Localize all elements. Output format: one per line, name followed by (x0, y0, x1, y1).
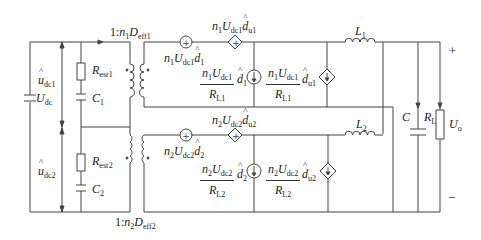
u: U (174, 144, 183, 158)
load-resistor-label: RL (424, 111, 436, 126)
u: U (174, 51, 183, 65)
transformer1-ratio-label: 1:n1Deff1 (110, 26, 151, 41)
u-sub: dc1 (44, 80, 56, 89)
u: U (212, 162, 221, 176)
d: d (302, 73, 308, 85)
c: C (402, 110, 410, 124)
d-sub: 2 (200, 151, 204, 160)
u: U (222, 113, 231, 127)
output-minus-sign: – (449, 190, 455, 202)
ch1-dependent-voltage-source-label: n1Udc1du1 (212, 20, 256, 35)
ratio-prefix: 1: (115, 215, 124, 229)
c-sub: 2 (100, 189, 104, 198)
l-sub: 2 (363, 124, 367, 133)
d: d (242, 114, 248, 126)
ch1-current-source-label: n1Udc1 RL1 (200, 67, 234, 103)
d-sub: eff1 (138, 32, 151, 41)
d: d (237, 73, 243, 85)
u-symbol: U (36, 91, 45, 105)
ratio-prefix: 1: (110, 25, 119, 39)
d-sub: u1 (308, 79, 316, 88)
ch2-dependent-current-source-label: n2Udc2 RL2 (266, 163, 300, 199)
d-sub: 2 (243, 174, 247, 183)
transformer1-secondary-coil-icon (140, 64, 145, 97)
u-sub: dc2 (183, 151, 195, 160)
u-sub: o (458, 124, 462, 133)
u: U (222, 19, 231, 33)
d: d (237, 168, 243, 180)
output-plus-sign: + (449, 45, 456, 57)
svg-text:+: + (232, 38, 240, 48)
l-sub: 1 (362, 31, 366, 40)
u-symbol: u (38, 165, 44, 177)
udc2-voltage-label: udc2 (38, 165, 56, 180)
udc1-voltage-label: udc1 (38, 74, 56, 89)
r-sub: L1 (216, 94, 225, 103)
c1-label: C1 (92, 92, 104, 107)
output-capacitor-label: C (402, 111, 410, 123)
l2-label: L2 (356, 118, 367, 133)
load-resistor-icon (436, 110, 444, 139)
ch2-current-source-d: d2 (237, 168, 247, 183)
transformer2-ratio-label: 1:n2Deff2 (115, 216, 156, 231)
udc-source-label: Udc (36, 92, 52, 107)
u-sub: dc2 (44, 171, 56, 180)
ch2-dependent-voltage-source-label: n2Udc2du2 (212, 114, 256, 129)
c-symbol: C (92, 182, 100, 196)
u-sub: dc2 (221, 169, 233, 178)
r-sub: esr1 (99, 70, 112, 79)
ch2-dependent-current-source-d: du2 (302, 168, 316, 183)
udc-capacitor-icon (24, 95, 36, 101)
svg-text:+: + (232, 131, 240, 141)
u: U (278, 66, 287, 80)
d-sub: eff2 (143, 222, 156, 231)
d-sub: u2 (248, 120, 256, 129)
svg-text:+: + (182, 131, 190, 141)
r-sub: L1 (282, 94, 291, 103)
d: d (194, 52, 200, 64)
ch1-voltage-source-label: n1Udc1d1 (164, 52, 204, 67)
c-symbol: C (92, 91, 100, 105)
transformer1-primary-coil-icon (130, 64, 135, 97)
u-sub: dc2 (231, 120, 243, 129)
u: U (212, 66, 221, 80)
u: U (278, 162, 287, 176)
u-sub: dc1 (231, 26, 243, 35)
d: d (194, 145, 200, 157)
l: L (355, 24, 362, 38)
c2-label: C2 (92, 183, 104, 198)
l1-label: L1 (355, 25, 366, 40)
r-sub: L2 (216, 190, 225, 199)
r-sub: L (431, 117, 436, 126)
u-sub: dc2 (287, 169, 299, 178)
d-sub: u2 (308, 174, 316, 183)
d-sub: u1 (248, 26, 256, 35)
d-symbol: D (129, 25, 138, 39)
r-sub: esr2 (99, 161, 112, 170)
d: d (302, 168, 308, 180)
c-sub: 1 (100, 98, 104, 107)
ch1-dependent-current-source-d: du1 (302, 73, 316, 88)
d: d (242, 20, 248, 32)
output-voltage-label: Uo (449, 118, 462, 133)
resr1-label: Resr1 (92, 64, 113, 79)
u-sub: dc1 (183, 58, 195, 67)
r-sub: L2 (282, 190, 291, 199)
transformer2-primary-coil-icon (130, 135, 132, 163)
ch2-voltage-source-label: n2Udc2d2 (164, 145, 204, 160)
u: U (449, 117, 458, 131)
transformer2-secondary-coil-icon (142, 135, 144, 163)
u-symbol: u (38, 74, 44, 86)
l: L (356, 117, 363, 131)
ch1-current-source-d: d1 (237, 73, 247, 88)
ch2-current-source-label: n2Udc2 RL2 (200, 163, 234, 199)
resr2-resistor-icon (77, 154, 85, 171)
u-sub: dc (45, 98, 53, 107)
u-sub: dc1 (221, 73, 233, 82)
resr1-resistor-icon (77, 63, 85, 80)
d-sub: 1 (243, 79, 247, 88)
u-sub: dc1 (287, 73, 299, 82)
ch1-dependent-current-source-label: n1Udc1 RL1 (266, 67, 300, 103)
d-symbol: D (134, 215, 143, 229)
resr2-label: Resr2 (92, 155, 113, 170)
